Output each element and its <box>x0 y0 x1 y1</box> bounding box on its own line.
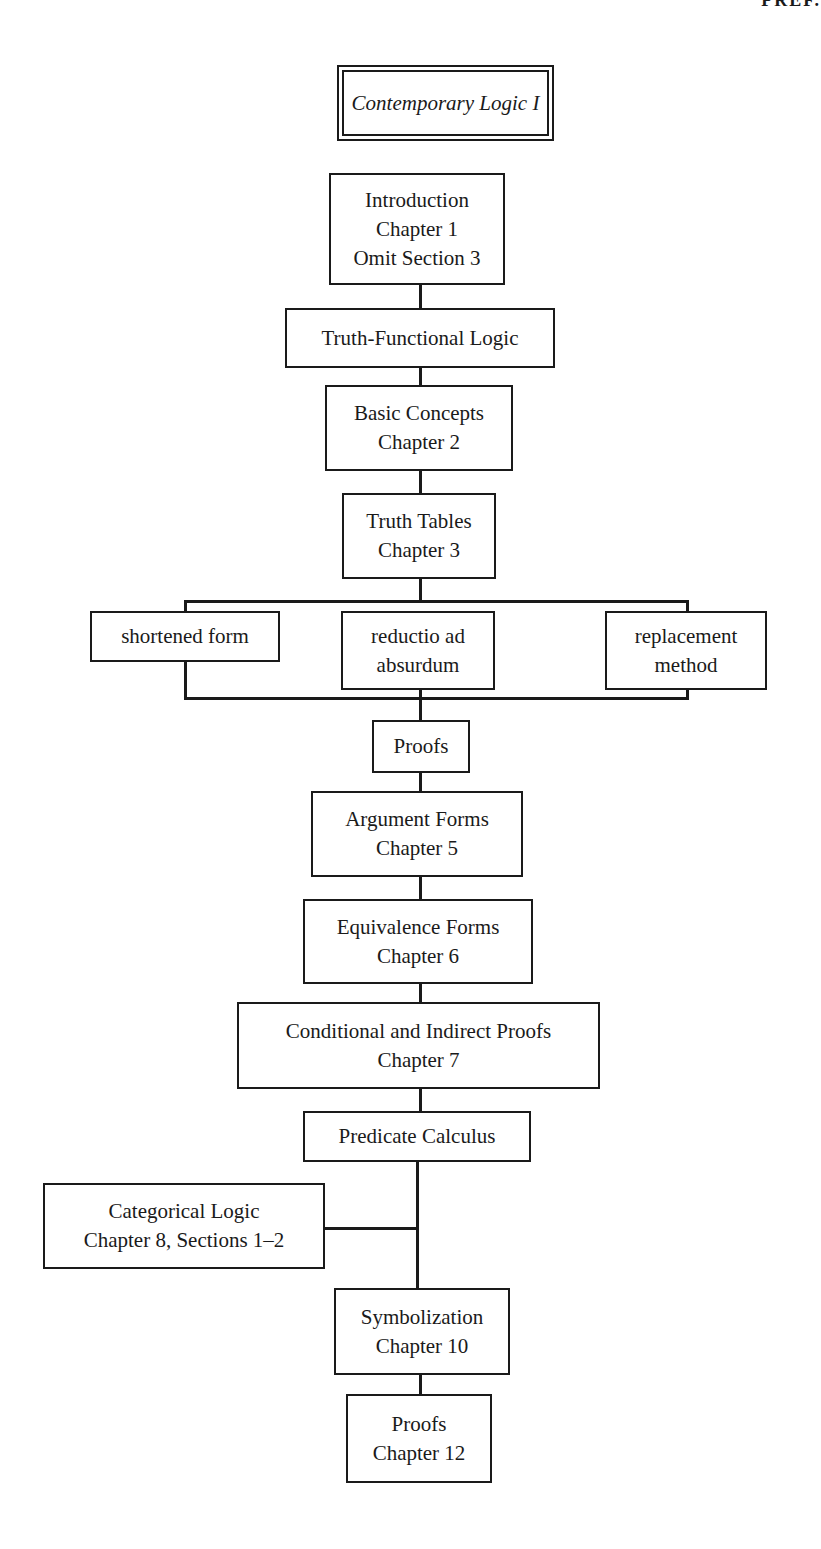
node-line: Chapter 2 <box>378 428 460 457</box>
node-line: Introduction <box>365 186 469 215</box>
node-line: Categorical Logic <box>108 1197 259 1226</box>
node-line: absurdum <box>377 651 460 680</box>
node-proofs-chapter-12: Proofs Chapter 12 <box>346 1394 492 1483</box>
node-line: Predicate Calculus <box>339 1122 496 1151</box>
node-line: Proofs <box>392 1410 447 1439</box>
connector <box>419 982 422 1003</box>
node-line: Chapter 10 <box>376 1332 469 1361</box>
connector <box>416 1160 419 1290</box>
diagram-title: Contemporary Logic I <box>342 70 549 136</box>
connector <box>419 1373 422 1395</box>
connector <box>419 1087 422 1112</box>
node-line: Truth-Functional Logic <box>322 324 519 353</box>
node-reductio-ad-absurdum: reductio ad absurdum <box>341 611 495 690</box>
node-equivalence-forms: Equivalence Forms Chapter 6 <box>303 899 533 984</box>
node-line: replacement <box>635 622 738 651</box>
connector <box>419 577 422 602</box>
node-line: Proofs <box>394 732 449 761</box>
connector-branch-bottom <box>184 697 689 700</box>
node-shortened-form: shortened form <box>90 611 280 662</box>
node-line: Omit Section 3 <box>353 244 480 273</box>
node-line: Truth Tables <box>366 507 471 536</box>
node-basic-concepts: Basic Concepts Chapter 2 <box>325 385 513 471</box>
node-categorical-logic: Categorical Logic Chapter 8, Sections 1–… <box>43 1183 325 1269</box>
node-symbolization: Symbolization Chapter 10 <box>334 1288 510 1375</box>
connector <box>419 469 422 494</box>
connector <box>419 688 422 721</box>
node-line: Symbolization <box>361 1303 484 1332</box>
node-line: Chapter 1 <box>376 215 458 244</box>
node-predicate-calculus: Predicate Calculus <box>303 1111 531 1162</box>
node-line: method <box>655 651 718 680</box>
connector <box>419 771 422 792</box>
connector <box>419 283 422 309</box>
node-line: Argument Forms <box>345 805 489 834</box>
connector <box>419 366 422 386</box>
page-header-fragment: PREF. <box>761 0 821 11</box>
diagram-title-frame: Contemporary Logic I <box>337 65 554 141</box>
node-line: shortened form <box>121 622 249 651</box>
connector-side <box>324 1227 418 1230</box>
node-line: Equivalence Forms <box>337 913 500 942</box>
node-line: Chapter 8, Sections 1–2 <box>84 1226 285 1255</box>
connector <box>184 660 187 699</box>
node-line: Chapter 3 <box>378 536 460 565</box>
node-line: Chapter 12 <box>373 1439 466 1468</box>
node-line: Chapter 7 <box>377 1046 459 1075</box>
node-replacement-method: replacement method <box>605 611 767 690</box>
node-line: reductio ad <box>371 622 465 651</box>
node-conditional-indirect-proofs: Conditional and Indirect Proofs Chapter … <box>237 1002 600 1089</box>
node-proofs: Proofs <box>372 720 470 773</box>
node-argument-forms: Argument Forms Chapter 5 <box>311 791 523 877</box>
connector <box>419 875 422 900</box>
connector-branch-top <box>184 600 689 603</box>
node-truth-functional-logic: Truth-Functional Logic <box>285 308 555 368</box>
node-line: Basic Concepts <box>354 399 484 428</box>
node-line: Chapter 6 <box>377 942 459 971</box>
node-truth-tables: Truth Tables Chapter 3 <box>342 493 496 579</box>
node-line: Conditional and Indirect Proofs <box>286 1017 551 1046</box>
node-line: Chapter 5 <box>376 834 458 863</box>
node-introduction: Introduction Chapter 1 Omit Section 3 <box>329 173 505 285</box>
